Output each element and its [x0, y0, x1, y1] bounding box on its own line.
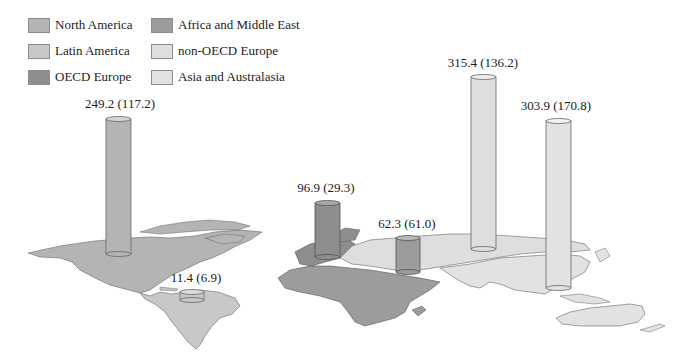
australia: [556, 304, 645, 326]
indonesia: [560, 294, 610, 304]
japan: [595, 248, 610, 262]
bar-label-asia-australasia: 303.9 (170.8): [521, 98, 591, 114]
madagascar: [412, 306, 426, 316]
bar-label-non-oecd-europe: 315.4 (136.2): [448, 55, 518, 71]
bar-label-latin-america: 11.4 (6.9): [171, 270, 221, 286]
new-zealand: [640, 324, 665, 332]
world-map: [0, 0, 697, 353]
cylinder-north-america: [106, 117, 131, 257]
bar-label-africa-middle-east: 62.3 (61.0): [378, 216, 435, 232]
bar-label-north-america: 249.2 (117.2): [85, 96, 155, 112]
cylinder-non-oecd-europe: [471, 75, 496, 252]
caribbean: [160, 287, 178, 291]
cylinder-africa-middle-east: [396, 236, 420, 275]
cylinder-oecd-europe: [315, 201, 340, 260]
africa-middle-east-landmass: [278, 266, 440, 326]
cylinder-latin-america: [180, 290, 204, 303]
bar-label-oecd-europe: 96.9 (29.3): [297, 180, 354, 196]
cylinder-asia-australasia: [546, 119, 571, 291]
